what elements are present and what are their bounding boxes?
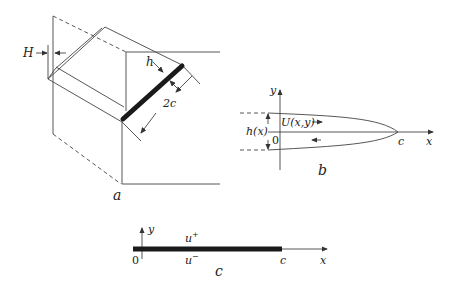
h-arrow-2 (170, 81, 177, 88)
figure-canvas: H h 2c a y x 0 c h(x) U(x,y) b y x 0 c u… (0, 0, 458, 291)
label-U: U(x,y) (281, 116, 315, 129)
caption-c: c (215, 263, 223, 279)
label-h: h (146, 55, 154, 69)
panel-b (240, 90, 433, 170)
label-2c: 2c (162, 97, 176, 110)
crack-bar (133, 247, 282, 252)
dim-ext-top (182, 65, 200, 84)
label-H: H (22, 46, 34, 60)
label-x: x (426, 135, 433, 148)
dim-2c-arrow-top (176, 76, 192, 92)
dim-2c-arrow-bottom (141, 113, 156, 133)
dashed-bottom-edge (53, 134, 121, 184)
slab-top-edge (105, 27, 182, 65)
figure: H h 2c a y x 0 c h(x) U(x,y) b y x 0 c u… (0, 0, 458, 291)
label-u-plus: u+ (185, 230, 199, 245)
slab-edge-3 (56, 67, 124, 107)
slab-bottom-edge (48, 79, 122, 122)
panel-a (36, 16, 220, 184)
label-u-minus: u− (185, 252, 199, 267)
label-x: x (320, 254, 327, 267)
label-origin: 0 (272, 134, 279, 147)
caption-a: a (113, 187, 121, 203)
dim-ext-bottom (122, 122, 141, 141)
crack-bar (123, 66, 182, 119)
label-y: y (269, 84, 277, 97)
label-c: c (280, 254, 286, 267)
label-origin: 0 (132, 254, 139, 267)
dashed-top-edge (53, 16, 126, 52)
label-c: c (398, 135, 404, 148)
slab-edge-2 (55, 28, 102, 69)
label-hx: h(x) (246, 125, 268, 138)
panel-c (142, 228, 327, 259)
caption-b: b (318, 162, 327, 178)
h-arrow (153, 62, 163, 72)
label-y: y (147, 223, 155, 236)
